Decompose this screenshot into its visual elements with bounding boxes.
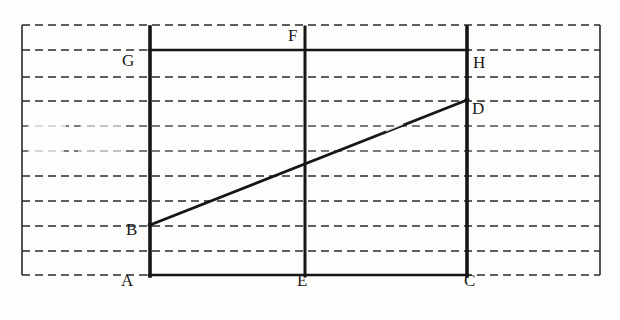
figure-canvas (0, 0, 620, 320)
point-label-A: A (121, 272, 133, 289)
point-label-F: F (288, 27, 297, 44)
point-label-B: B (126, 221, 137, 238)
segment-BD-group (150, 100, 467, 225)
point-label-E: E (297, 272, 307, 289)
vertex-dot-D (464, 97, 469, 102)
point-label-H: H (473, 54, 485, 71)
vertex-dot-B (148, 223, 153, 228)
geometry-figure: A B C D E F G H (0, 0, 620, 320)
segment-BD (150, 100, 467, 225)
point-label-D: D (472, 100, 484, 117)
point-label-G: G (122, 52, 134, 69)
caption-ghost (276, 300, 346, 314)
point-label-C: C (464, 272, 475, 289)
